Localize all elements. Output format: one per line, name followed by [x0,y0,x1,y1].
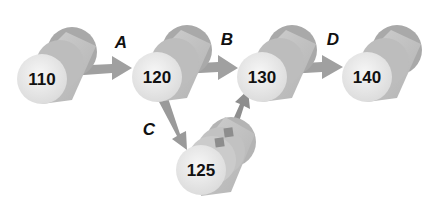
edge-label-c: C [143,120,156,139]
marker-square [214,137,224,147]
edge-label-b: B [221,30,233,49]
version-diagram: 110 120 130 140 125 A B C D [0,0,433,199]
node-140: 140 [342,25,422,102]
node-110: 110 [17,27,97,104]
node-label: 130 [248,68,276,87]
marker-square [223,127,233,137]
arrow-c [158,98,187,150]
edge-label-a: A [114,33,127,52]
node-130: 130 [237,25,317,102]
node-label: 125 [187,161,215,180]
node-125: 125 [176,117,256,196]
node-label: 140 [353,68,381,87]
edge-label-d: D [327,30,339,49]
node-120: 120 [132,25,212,102]
node-label: 110 [28,70,55,89]
node-label: 120 [143,68,171,87]
